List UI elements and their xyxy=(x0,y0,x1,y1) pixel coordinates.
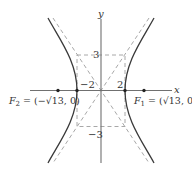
x-axis-label: x xyxy=(174,84,180,95)
focus-f2-label: F2 = (−√13, 0) xyxy=(8,95,80,108)
y-axis-label: y xyxy=(97,8,104,19)
tick-label-x-pos: 2 xyxy=(117,79,123,90)
tick-label-y-neg: −3 xyxy=(88,129,103,140)
focus-f1-label: F1 = (√13, 0) xyxy=(133,95,192,108)
vertex-left xyxy=(75,89,78,92)
focus-f1-label-rest: = (√13, 0) xyxy=(145,95,192,106)
focus-f2-label-rest: = (−√13, 0) xyxy=(20,95,80,106)
tick-label-y-pos: 3 xyxy=(93,49,99,60)
hyperbola-diagram: y x 3 −3 −2 2 F2 = (−√13, 0) F1 = (√13, … xyxy=(0,0,192,169)
vertex-right xyxy=(123,89,126,92)
focus-f1 xyxy=(142,89,145,92)
focus-f2 xyxy=(56,89,59,92)
tick-label-x-neg: −2 xyxy=(80,79,95,90)
